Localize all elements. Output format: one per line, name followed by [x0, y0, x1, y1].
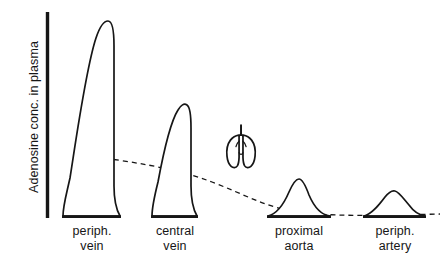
peak-periph-artery	[363, 191, 426, 217]
peak-periph-vein	[62, 21, 121, 217]
category-label-line1: central	[139, 224, 211, 239]
category-label-line2: artery	[358, 239, 432, 254]
category-label-periph-vein: periph. vein	[56, 224, 128, 254]
category-label-periph-artery: periph. artery	[358, 224, 432, 254]
category-label-line2: aorta	[260, 239, 338, 254]
peak-central-vein	[151, 104, 198, 216]
category-label-line2: vein	[56, 239, 128, 254]
adenosine-concentration-figure: Adenosine conc. in plasma	[0, 0, 444, 265]
lungs-icon	[227, 125, 255, 167]
peak-curve	[63, 21, 120, 216]
category-label-line2: vein	[139, 239, 211, 254]
category-label-line1: periph.	[56, 224, 128, 239]
category-label-central-vein: central vein	[139, 224, 211, 254]
category-label-proximal-aorta: proximal aorta	[260, 224, 338, 254]
peak-proximal-aorta	[267, 179, 331, 217]
category-label-line1: periph.	[358, 224, 432, 239]
category-label-line1: proximal	[260, 224, 338, 239]
peak-curve	[364, 191, 425, 216]
peak-curve	[268, 179, 330, 216]
peak-curve	[152, 104, 197, 216]
